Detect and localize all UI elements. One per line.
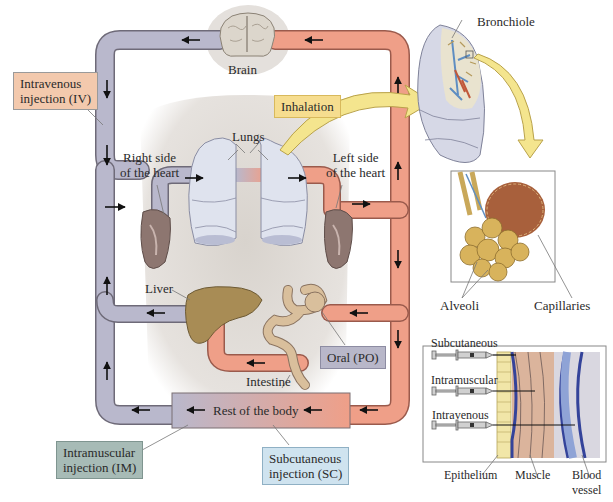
right-heart-label: Right side of the heart — [120, 150, 179, 180]
blood-vessel-label: Blood vessel — [572, 468, 601, 498]
alveoli-detail — [451, 171, 555, 282]
inhalation-route-label: Inhalation — [274, 95, 341, 118]
capillaries-label: Capillaries — [534, 298, 590, 313]
brain-icon — [220, 13, 275, 56]
lung-detail-icon — [418, 25, 485, 163]
liver-label: Liver — [145, 281, 173, 296]
po-route-label: Oral (PO) — [320, 346, 386, 369]
right-heart-icon — [141, 210, 171, 269]
bronchiole-label: Bronchiole — [477, 14, 535, 29]
subcutaneous-label: Subcutaneous — [431, 336, 498, 351]
im-route-label: Intramuscular injection (IM) — [56, 441, 143, 479]
intramuscular-label: Intramuscular — [431, 373, 498, 388]
injection-detail — [423, 346, 606, 462]
lungs-label: Lungs — [232, 129, 265, 144]
alveoli-label: Alveoli — [440, 298, 479, 313]
drug-routes-diagram: Brain Lungs Right side of the heart Left… — [0, 0, 613, 502]
left-heart-label: Left side of the heart — [326, 150, 385, 180]
muscle-label: Muscle — [515, 468, 550, 483]
epithelium-label: Epithelium — [444, 468, 497, 483]
intestine-label: Intestine — [246, 374, 291, 389]
intravenous-label: Intravenous — [432, 408, 489, 423]
sc-route-label: Subcutaneous injection (SC) — [262, 447, 349, 485]
iv-route-label: Intravenous injection (IV) — [13, 72, 98, 110]
left-heart-icon — [324, 210, 352, 269]
brain-label: Brain — [228, 62, 257, 77]
rest-of-body-label: Rest of the body — [213, 403, 299, 418]
